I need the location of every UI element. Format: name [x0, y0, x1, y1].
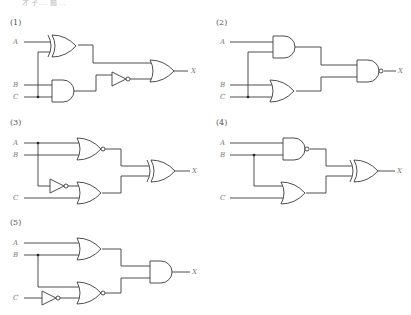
xor-gate	[147, 160, 175, 182]
input-a-label: A	[12, 38, 18, 46]
input-b-label: B	[12, 251, 18, 259]
and-gate	[150, 261, 172, 283]
or-gate	[270, 80, 294, 102]
output-x-label: X	[397, 67, 404, 75]
circuit-label: (3)	[10, 118, 21, 127]
output-x-label: X	[191, 167, 198, 175]
input-c-label: C	[13, 93, 19, 101]
not-gate	[42, 291, 60, 305]
circuit-5: (5) A B C X	[10, 218, 198, 305]
input-a-label: A	[12, 239, 18, 247]
and-gate	[52, 80, 74, 102]
input-c-label: C	[13, 294, 19, 302]
input-b-label: B	[12, 81, 18, 89]
input-c-label: C	[220, 194, 226, 202]
input-b-label: B	[219, 81, 225, 89]
logic-circuits-diagram: 才 子 … 题 … (1) A B C X (2) A B C	[0, 0, 411, 315]
input-a-label: A	[219, 38, 225, 46]
circuit-2: (2) A B C X	[216, 18, 404, 102]
nand-gate	[357, 60, 383, 82]
cut-off-header-text: 才 子 … 题 …	[22, 0, 66, 7]
circuit-label: (5)	[10, 218, 21, 227]
input-b-label: B	[12, 151, 18, 159]
input-a-label: A	[12, 139, 18, 147]
circuit-label: (2)	[216, 18, 227, 27]
input-c-label: C	[13, 194, 19, 202]
and-gate	[273, 36, 295, 58]
not-gate	[50, 179, 68, 193]
not-gate	[112, 72, 130, 86]
xor-gate	[350, 160, 378, 182]
or-gate	[281, 182, 305, 204]
circuit-label: (1)	[10, 18, 21, 27]
output-x-label: X	[396, 167, 403, 175]
circuit-3: (3) A B C X	[10, 118, 198, 204]
nand-gate	[283, 138, 309, 160]
input-b-label: B	[219, 151, 225, 159]
circuit-4: (4) A B C X	[216, 118, 403, 204]
nor-gate	[77, 138, 105, 160]
xor-gate	[48, 35, 76, 57]
circuit-1: (1) A B C X	[10, 18, 197, 102]
or-gate	[150, 60, 174, 82]
output-x-label: X	[190, 67, 197, 75]
input-a-label: A	[219, 139, 225, 147]
or-gate	[77, 182, 101, 204]
input-c-label: C	[220, 93, 226, 101]
nor-gate	[77, 282, 105, 304]
or-gate	[77, 238, 101, 260]
output-x-label: X	[191, 268, 198, 276]
circuit-label: (4)	[216, 118, 227, 127]
